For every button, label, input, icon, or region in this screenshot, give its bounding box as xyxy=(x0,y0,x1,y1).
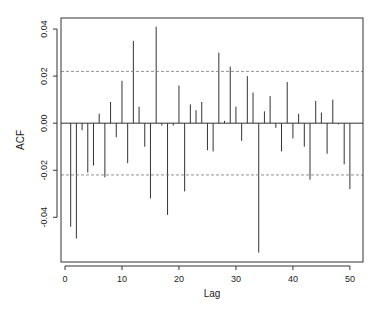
plot-frame xyxy=(61,18,363,262)
x-tick-label: 50 xyxy=(345,274,355,284)
x-tick-label: 20 xyxy=(174,274,184,284)
x-tick-label: 10 xyxy=(117,274,127,284)
x-tick-label: 30 xyxy=(231,274,241,284)
acf-chart: 01020304050 0.040.020.00-0.02-0.04 Lag A… xyxy=(0,0,378,315)
y-tick-label: 0.02 xyxy=(39,67,49,85)
x-tick-label: 40 xyxy=(288,274,298,284)
y-axis: 0.040.020.00-0.02-0.04 xyxy=(39,20,57,227)
y-tick-label: 0.04 xyxy=(39,20,49,38)
x-axis: 01020304050 xyxy=(62,266,354,284)
x-tick-label: 0 xyxy=(62,274,67,284)
y-tick-label: 0.00 xyxy=(39,114,49,132)
y-tick-label: -0.02 xyxy=(39,160,49,181)
acf-plot-svg: 01020304050 0.040.020.00-0.02-0.04 Lag A… xyxy=(0,0,378,315)
acf-bars xyxy=(71,27,350,253)
x-axis-label: Lag xyxy=(204,288,221,299)
y-axis-label: ACF xyxy=(15,130,26,150)
y-tick-label: -0.04 xyxy=(39,207,49,228)
